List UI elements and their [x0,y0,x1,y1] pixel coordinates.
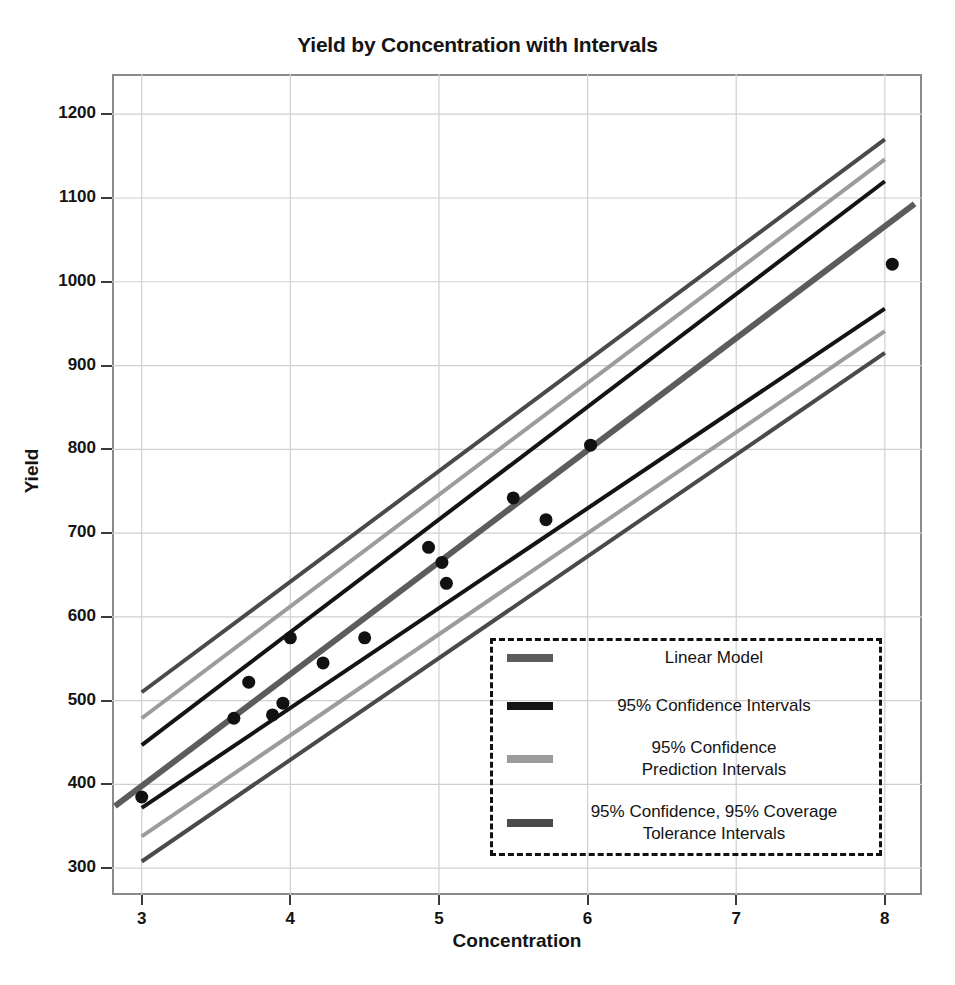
y-tick-label: 1200 [18,103,96,123]
page-title: Yield by Concentration with Intervals [0,33,955,57]
data-point [584,439,597,452]
data-point [422,541,435,554]
data-point [539,513,552,526]
data-point [227,712,240,725]
x-tick-label: 4 [260,909,320,929]
legend-label: 95% Confidence Intervals [553,695,885,717]
data-point [135,790,148,803]
data-point [440,577,453,590]
legend-item[interactable]: 95% ConfidencePrediction Intervals [493,737,885,781]
y-tick-mark [101,867,112,869]
legend-item[interactable]: 95% Confidence, 95% CoverageTolerance In… [493,801,885,845]
chart-page: Yield by Concentration with Intervals Yi… [0,0,955,985]
chart-line [142,159,885,718]
y-tick-label: 800 [18,438,96,458]
legend-item[interactable]: 95% Confidence Intervals [493,695,885,717]
x-tick-mark [587,895,589,905]
y-tick-label: 600 [18,606,96,626]
y-tick-mark [101,448,112,450]
y-tick-label: 300 [18,857,96,877]
y-tick-mark [101,532,112,534]
x-tick-mark [735,895,737,905]
legend-swatch [507,702,553,710]
y-tick-mark [101,700,112,702]
x-tick-label: 5 [409,909,469,929]
x-tick-label: 3 [112,909,172,929]
y-tick-mark [101,365,112,367]
y-tick-mark [101,281,112,283]
data-point [886,258,899,271]
x-axis-label: Concentration [112,930,922,952]
x-tick-label: 7 [706,909,766,929]
x-tick-label: 6 [558,909,618,929]
y-tick-label: 1000 [18,271,96,291]
x-tick-mark [141,895,143,905]
y-tick-mark [101,113,112,115]
legend-label: Linear Model [553,647,885,669]
legend-label: 95% Confidence, 95% CoverageTolerance In… [553,801,885,845]
data-point [317,656,330,669]
y-tick-mark [101,616,112,618]
y-tick-label: 900 [18,355,96,375]
y-tick-mark [101,197,112,199]
data-point [276,697,289,710]
y-tick-mark [101,783,112,785]
legend-swatch [507,755,553,763]
data-point [284,631,297,644]
y-tick-label: 700 [18,522,96,542]
y-tick-label: 1100 [18,187,96,207]
legend-swatch [507,654,553,662]
y-tick-label: 400 [18,773,96,793]
x-tick-mark [884,895,886,905]
data-point [435,556,448,569]
data-point [507,491,520,504]
legend-label: 95% ConfidencePrediction Intervals [553,737,885,781]
legend-swatch [507,819,553,827]
legend-item[interactable]: Linear Model [493,647,885,669]
x-tick-mark [438,895,440,905]
data-point [266,708,279,721]
data-point [358,631,371,644]
x-tick-mark [289,895,291,905]
data-point [242,676,255,689]
y-tick-label: 500 [18,690,96,710]
x-tick-label: 8 [855,909,915,929]
chart-legend[interactable]: Linear Model95% Confidence Intervals95% … [490,638,882,856]
y-axis-label: Yield [21,421,43,521]
